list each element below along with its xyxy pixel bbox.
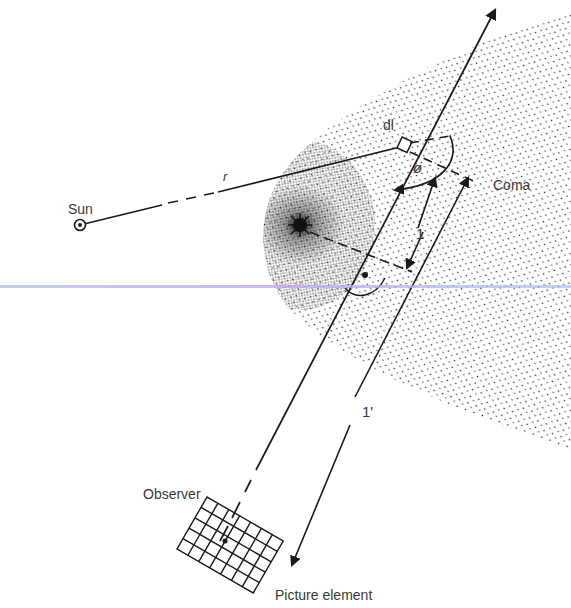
nucleus-icon	[288, 213, 312, 237]
dl-label: dl	[383, 118, 394, 132]
angle-marker-dot	[362, 272, 368, 278]
observer-label: Observer	[143, 487, 201, 501]
coma-label: Coma	[493, 178, 530, 192]
sun-label: Sun	[68, 202, 93, 216]
coma-region	[225, 0, 571, 460]
picture-element-label: Picture element	[275, 588, 372, 602]
comet-geometry-diagram	[0, 0, 571, 608]
observer-point	[223, 539, 228, 544]
distance-l-prime-label: 1'	[362, 404, 373, 419]
picture-element-grid	[177, 497, 283, 593]
sun-icon	[75, 220, 86, 231]
scan-artifact-line	[0, 285, 571, 288]
distance-l-label: 1	[416, 226, 424, 241]
r-label: r	[223, 170, 227, 183]
phi-label: ø	[413, 160, 422, 175]
